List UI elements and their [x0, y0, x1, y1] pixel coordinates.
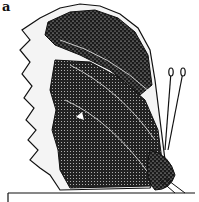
butterfly-illustration — [0, 0, 199, 202]
body — [147, 150, 175, 190]
ground-line — [8, 193, 195, 202]
antennae — [165, 68, 185, 150]
